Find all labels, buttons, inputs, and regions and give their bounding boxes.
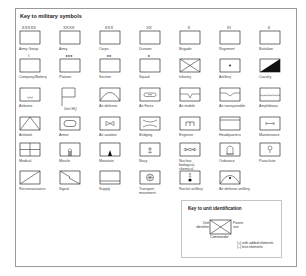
- symbol-label: Parachute: [259, 159, 275, 163]
- symbol-corps: XXXCorps: [99, 27, 139, 55]
- symbol-air-mobile-icon: [179, 84, 201, 102]
- symbol-label: Missile: [59, 159, 70, 163]
- symbol-air-force: Air Force: [139, 84, 179, 112]
- symbol-infantry-icon: [179, 55, 201, 73]
- symbol-label: Navy: [139, 159, 147, 163]
- symbol-label: Regiment: [219, 47, 234, 51]
- symbol-air-defense: Air defense: [99, 84, 139, 112]
- unit-key-symbol-icon: [182, 201, 281, 257]
- symbol-label: Antitank: [19, 133, 32, 137]
- symbol-company-battery: ICompany/Battery: [19, 55, 59, 83]
- symbol-label: Air defense: [99, 104, 117, 108]
- symbol-nuclear-biological-chemical-icon: [179, 139, 201, 157]
- symbol-label: Signal: [59, 187, 69, 191]
- symbol-infantry: Infantry: [179, 55, 219, 83]
- symbol-label: Maintenance: [259, 133, 280, 137]
- symbol-label: Section: [99, 75, 111, 79]
- echelon-mark: ●●●: [57, 54, 81, 58]
- symbol-label: Platoon: [59, 75, 71, 79]
- symbol-label: Airborne: [19, 104, 33, 108]
- symbol-transport-movement: Transport movement: [139, 167, 179, 195]
- less-elements-note: (–) less elements: [237, 245, 263, 249]
- symbol-antitank: Antitank: [19, 113, 59, 141]
- symbol-maintenance: Maintenance: [259, 113, 299, 141]
- symbol-air-defense-icon: [99, 84, 121, 102]
- echelon-mark: XXX: [97, 26, 121, 30]
- symbol-armor: Armor: [59, 113, 99, 141]
- symbol-armor-icon: [59, 113, 81, 131]
- symbol-brigade: XBrigade: [179, 27, 219, 55]
- symbol-artillery-icon: [219, 55, 241, 73]
- symbol-engineer-icon: [179, 113, 201, 131]
- symbol-reconnaissance-icon: [19, 167, 41, 185]
- symbol-maintenance-icon: [259, 113, 281, 131]
- symbol-label: Infantry: [179, 75, 191, 79]
- echelon-mark: ●●: [97, 54, 121, 58]
- symbol-label: Engineer: [179, 133, 193, 137]
- symbol-label: Army: [59, 47, 67, 51]
- symbol-label: Air transportable: [219, 104, 245, 108]
- echelon-mark: III: [217, 26, 241, 30]
- symbol-amphibious-icon: [259, 84, 281, 102]
- symbol-supply-icon: [99, 167, 121, 185]
- symbol-section: ●●Section: [99, 55, 139, 83]
- symbol-bridging: Bridging: [139, 113, 179, 141]
- echelon-mark: ●: [137, 54, 161, 58]
- symbol-air-force-icon: [139, 84, 161, 102]
- symbol-label: Transport movement: [139, 187, 167, 195]
- symbol-rocket-artillery: Rocket artillery: [179, 167, 219, 195]
- symbol-army: XXXXArmy: [59, 27, 99, 55]
- symbol-parachute: Parachute: [259, 139, 299, 167]
- symbol-label: Amphibious: [259, 104, 278, 108]
- symbol-label: Artillery: [219, 75, 231, 79]
- symbol-amphibious: Amphibious: [259, 84, 299, 112]
- symbol-label: Air aviation: [99, 133, 117, 137]
- symbol-label: Corps: [99, 47, 109, 51]
- symbol-platoon: ●●●Platoon: [59, 55, 99, 83]
- symbol-label: Reconnaissance: [19, 187, 46, 191]
- symbol-signal-icon: [59, 167, 81, 185]
- symbol-ordnance: Ordnance: [219, 139, 259, 167]
- symbol-label: Company/Battery: [19, 75, 47, 79]
- symbol-artillery: Artillery: [219, 55, 259, 83]
- symbol-squad: ●Squad: [139, 55, 179, 83]
- symbol-battalion: IIBattalion: [259, 27, 299, 55]
- symbol-division: XXDivision: [139, 27, 179, 55]
- symbol-air-defense-artillery-icon: [219, 167, 241, 185]
- symbol-signal: Signal: [59, 167, 99, 195]
- symbol-label: Armor: [59, 133, 69, 137]
- symbol-navy-icon: [139, 139, 161, 157]
- echelon-mark: XXXX: [57, 26, 81, 30]
- commander-label: Commander: [210, 235, 229, 239]
- symbol-air-transportable-icon: [219, 84, 241, 102]
- symbol-label: Air Force: [139, 104, 154, 108]
- unit-identifier-label: Unit identifier: [199, 221, 209, 229]
- symbol-label: Ordnance: [219, 159, 235, 163]
- symbol-nuclear-biological-chemical: Nuclear, biological, chemical: [179, 139, 219, 167]
- symbol-label: Battalion: [259, 47, 273, 51]
- symbol-air-transportable: Air transportable: [219, 84, 259, 112]
- symbol-missile: Missile: [59, 139, 99, 167]
- parent-unit-line2: unit: [233, 225, 243, 229]
- symbol-cavalry-icon: [259, 55, 281, 73]
- symbol-bridging-icon: [139, 113, 161, 131]
- unit-identifier-line2: identifier: [195, 225, 209, 229]
- symbol-air-defense-artillery: Air defense artillery: [219, 167, 259, 195]
- symbol-label: Headquarters: [219, 133, 241, 137]
- symbol-label: Brigade: [179, 47, 191, 51]
- symbol-missile-icon: [59, 139, 81, 157]
- unit-identification-key: Key to unit identification Unit identifi…: [181, 200, 282, 258]
- symbol-navy: Navy: [139, 139, 179, 167]
- symbol-engineer: Engineer: [179, 113, 219, 141]
- symbol-label: Army Group: [19, 47, 38, 51]
- symbol-transport-movement-icon: [139, 167, 161, 185]
- symbol-label: Air mobile: [179, 104, 195, 108]
- symbol-label: Medical: [19, 159, 31, 163]
- symbol-label: Unit HQ: [64, 107, 77, 111]
- symbol-mountain: Mountain: [99, 139, 139, 167]
- symbol-rocket-artillery-icon: [179, 167, 201, 185]
- symbol-mountain-icon: [99, 139, 121, 157]
- symbol-army-group: XXXXXArmy Group: [19, 27, 59, 55]
- symbol-medical: Medical: [19, 139, 59, 167]
- key-title: Key to military symbols: [20, 13, 82, 19]
